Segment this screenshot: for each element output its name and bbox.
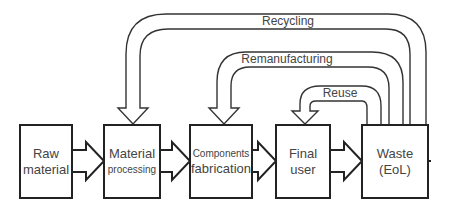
node-components-fabrication: Components fabrication [190,125,252,198]
node-raw-material: Raw material [20,125,72,198]
node-final-user: Final user [276,125,330,198]
node-waste-line2: (EoL) [379,162,411,177]
reuse-loop-arrow: Reuse [292,86,381,125]
circular-economy-diagram: Recycling Remanufacturing Reuse Raw mate… [0,0,449,212]
reuse-label: Reuse [323,86,358,100]
node-raw-line2: material [23,162,69,177]
node-waste-line1: Waste [377,146,413,161]
node-final-line2: user [290,162,316,177]
flow-arrow-components-to-final [252,142,276,180]
node-final-line1: Final [289,146,317,161]
node-waste-eol: Waste (EoL) [362,125,431,198]
recycling-label: Recycling [262,14,314,28]
node-components-line2: fabrication [191,161,251,176]
flow-arrow-final-to-waste [330,142,362,180]
node-material-line1: Material [109,146,155,161]
node-raw-line1: Raw [33,146,60,161]
remanufacturing-label: Remanufacturing [241,52,332,66]
flow-arrow-raw-to-material [72,142,104,180]
node-material-line2: processing [108,164,156,175]
node-material-processing: Material processing [104,125,160,198]
node-components-line1: Components [193,148,250,159]
flow-arrow-material-to-components [160,142,190,180]
